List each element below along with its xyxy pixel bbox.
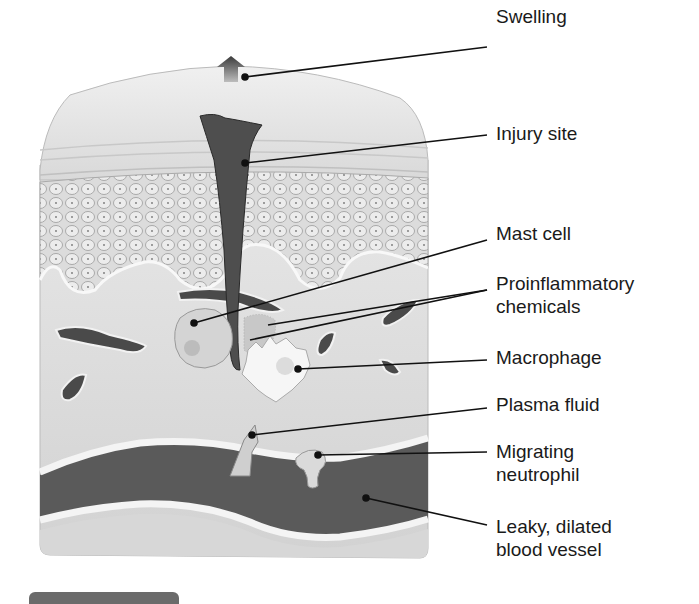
mast-cell [175, 309, 233, 368]
label-migrating-neutrophil: Migrating neutrophil [496, 440, 579, 486]
label-mast-cell: Mast cell [496, 222, 571, 245]
label-plasma-fluid: Plasma fluid [496, 393, 600, 416]
figure-caption-tab [29, 592, 179, 604]
label-injury-site: Injury site [496, 122, 577, 145]
label-macrophage: Macrophage [496, 346, 602, 369]
label-proinflammatory-chemicals: Proinflammatory chemicals [496, 272, 634, 318]
label-swelling: Swelling [496, 5, 567, 28]
label-leaky-dilated-blood-vessel: Leaky, dilated blood vessel [496, 515, 612, 561]
